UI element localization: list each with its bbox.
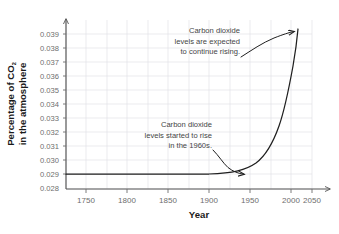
annotation-upper-line1: Carbon dioxide (189, 26, 240, 35)
annotation-upper-line2: levels are expected (175, 37, 240, 46)
x-tick-label: 2050 (303, 196, 321, 205)
x-axis-title: Year (189, 209, 210, 220)
x-tick-label: 1750 (77, 196, 95, 205)
y-axis-title-line2: in the atmosphere (17, 63, 28, 146)
x-tick-label: 1850 (159, 196, 177, 205)
y-tick-label: 0.038 (40, 44, 59, 53)
x-tick-label: 1900 (200, 196, 218, 205)
y-axis-title-line1: Percentage of CO (5, 65, 16, 146)
chart-canvas: 0.039 0.038 0.037 0.036 0.035 0.034 0.03… (0, 0, 339, 234)
y-axis-title: Percentage of CO2 in the atmosphere (5, 62, 28, 146)
y-tick-label: 0.037 (40, 58, 59, 67)
annotation-lower-line3: in the 1960s. (169, 141, 213, 150)
x-tick-label: 2000 (282, 196, 300, 205)
x-tick-label: 1950 (241, 196, 259, 205)
y-tick-label: 0.029 (40, 170, 59, 179)
y-tick-label: 0.035 (40, 86, 59, 95)
y-tick-label: 0.034 (40, 100, 59, 109)
annotation-lower-line2: levels started to rise (144, 131, 212, 140)
co2-chart: 0.039 0.038 0.037 0.036 0.035 0.034 0.03… (0, 0, 339, 234)
x-tick-label: 1800 (118, 196, 136, 205)
annotation-upper-line3: to continue rising. (180, 47, 240, 56)
y-tick-label: 0.030 (40, 156, 59, 165)
y-tick-label: 0.036 (40, 72, 59, 81)
y-tick-label: 0.033 (40, 114, 59, 123)
y-tick-label: 0.028 (40, 184, 59, 193)
y-tick-label: 0.031 (40, 142, 59, 151)
y-tick-label: 0.039 (40, 30, 59, 39)
annotation-lower-line1: Carbon dioxide (161, 120, 212, 129)
y-tick-label: 0.032 (40, 128, 59, 137)
